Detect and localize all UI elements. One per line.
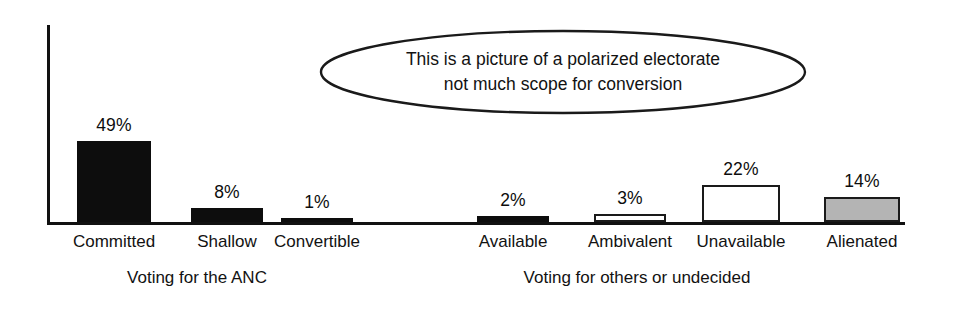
value-label-unavailable: 22% [701, 159, 781, 180]
bar-alienated [824, 197, 900, 222]
value-label-ambivalent: 3% [590, 188, 670, 209]
x-axis-baseline [47, 222, 905, 225]
callout-text: This is a picture of a polarized elector… [318, 28, 808, 116]
callout-line-2: not much scope for conversion [444, 72, 682, 97]
bar-available [477, 216, 549, 222]
bar-committed [77, 141, 151, 222]
bar-unavailable [702, 185, 780, 222]
value-label-alienated: 14% [822, 171, 902, 192]
group-caption-0: Voting for the ANC [37, 268, 357, 288]
bar-shallow [191, 208, 263, 222]
callout-line-1: This is a picture of a polarized elector… [406, 47, 720, 72]
value-label-committed: 49% [74, 115, 154, 136]
category-label-unavailable: Unavailable [671, 232, 811, 252]
value-label-shallow: 8% [187, 182, 267, 203]
bar-convertible [281, 218, 353, 222]
annotation-callout: This is a picture of a polarized elector… [318, 28, 808, 116]
category-label-alienated: Alienated [792, 232, 932, 252]
category-label-convertible: Convertible [247, 232, 387, 252]
bar-ambivalent [594, 214, 666, 222]
value-label-convertible: 1% [277, 192, 357, 213]
chart-canvas: 49%8%1%2%3%22%14% CommittedShallowConver… [0, 0, 954, 323]
y-axis-line [47, 25, 50, 225]
value-label-available: 2% [473, 190, 553, 211]
group-caption-1: Voting for others or undecided [477, 268, 797, 288]
